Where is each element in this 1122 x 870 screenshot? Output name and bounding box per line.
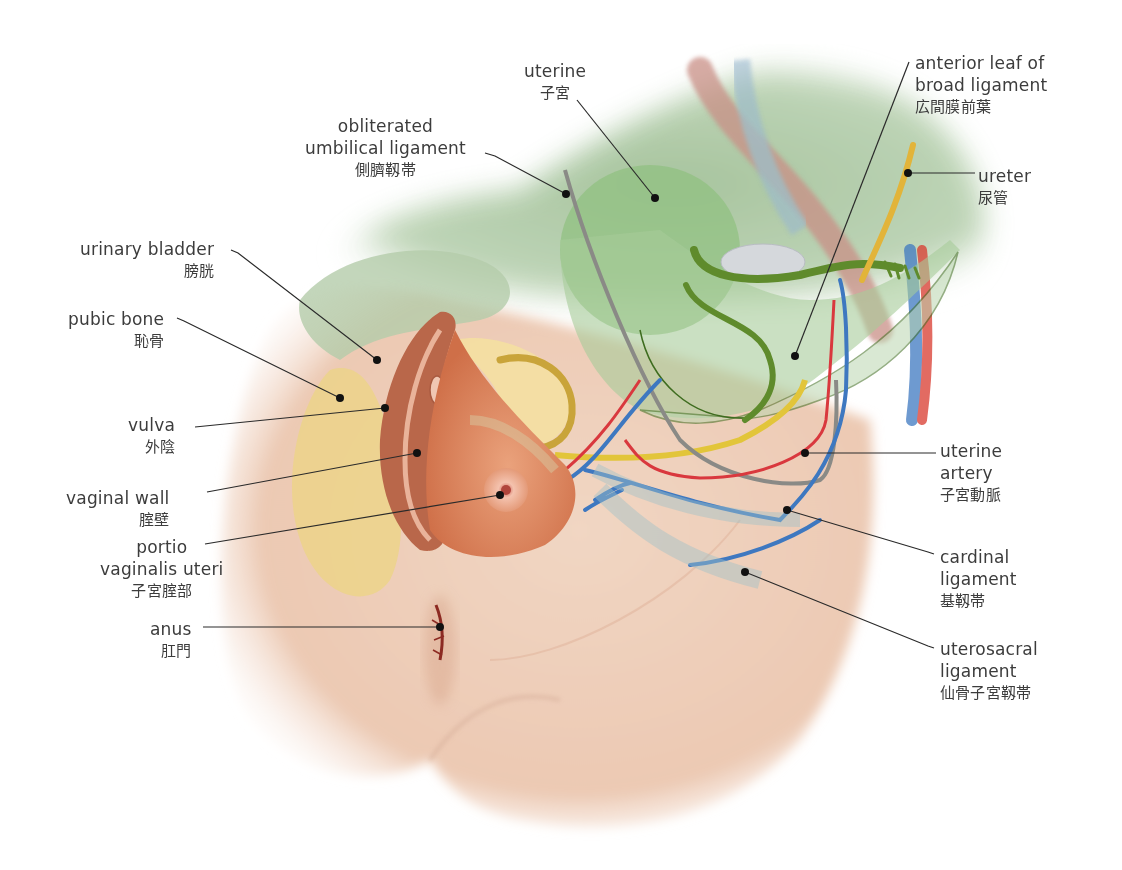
label-uterine-artery: uterineartery子宮動脈 [940, 440, 1002, 506]
leader-dot-uterine [651, 194, 659, 202]
label-japanese-text: 側臍靱帯 [305, 159, 466, 181]
label-portio-vaginalis-uteri: portiovaginalis uteri子宮腟部 [100, 536, 224, 602]
leader-dot-cardinal-ligament [783, 506, 791, 514]
label-english-text: anterior leaf of [915, 52, 1047, 74]
label-ureter: ureter尿管 [978, 165, 1031, 209]
label-japanese-text: 肛門 [150, 640, 192, 662]
label-uterosacral-ligament: uterosacralligament仙骨子宮靱帯 [940, 638, 1038, 704]
label-english-text: broad ligament [915, 74, 1047, 96]
leader-dot-uterine-artery [801, 449, 809, 457]
label-japanese-text: 仙骨子宮靱帯 [940, 682, 1038, 704]
label-uterine: uterine子宮 [524, 60, 586, 104]
leader-dot-pubic-bone [336, 394, 344, 402]
label-english-text: uterine [940, 440, 1002, 462]
label-japanese-text: 基靱帯 [940, 590, 1017, 612]
label-urinary-bladder: urinary bladder膀胱 [80, 238, 214, 282]
label-english-text: ligament [940, 568, 1017, 590]
label-pubic-bone: pubic bone恥骨 [68, 308, 164, 352]
label-english-text: obliterated [305, 115, 466, 137]
leader-dot-anterior-leaf-broad-ligament [791, 352, 799, 360]
leader-dot-vulva [381, 404, 389, 412]
label-japanese-text: 尿管 [978, 187, 1031, 209]
leader-dot-vaginal-wall [413, 449, 421, 457]
label-cardinal-ligament: cardinalligament基靱帯 [940, 546, 1017, 612]
leader-dot-obliterated-umbilical-ligament [562, 190, 570, 198]
label-japanese-text: 外陰 [128, 436, 175, 458]
label-japanese-text: 腟壁 [66, 509, 169, 531]
label-japanese-text: 子宮腟部 [100, 580, 224, 602]
label-english-text: pubic bone [68, 308, 164, 330]
label-english-text: umbilical ligament [305, 137, 466, 159]
label-english-text: cardinal [940, 546, 1017, 568]
leader-dot-uterosacral-ligament [741, 568, 749, 576]
leader-dot-urinary-bladder [373, 356, 381, 364]
label-english-text: anus [150, 618, 192, 640]
label-anus: anus肛門 [150, 618, 192, 662]
label-english-text: vulva [128, 414, 175, 436]
label-japanese-text: 膀胱 [80, 260, 214, 282]
label-japanese-text: 子宮動脈 [940, 484, 1002, 506]
anatomy-diagram: uterine子宮obliteratedumbilical ligament側臍… [0, 0, 1122, 870]
label-english-text: uterine [524, 60, 586, 82]
label-english-text: vaginal wall [66, 487, 169, 509]
label-obliterated-umbilical-ligament: obliteratedumbilical ligament側臍靱帯 [305, 115, 466, 181]
leader-dot-portio-vaginalis-uteri [496, 491, 504, 499]
label-english-text: artery [940, 462, 1002, 484]
label-english-text: urinary bladder [80, 238, 214, 260]
label-anterior-leaf-broad-ligament: anterior leaf ofbroad ligament広間膜前葉 [915, 52, 1047, 118]
label-japanese-text: 広間膜前葉 [915, 96, 1047, 118]
label-vaginal-wall: vaginal wall腟壁 [66, 487, 169, 531]
label-english-text: ligament [940, 660, 1038, 682]
leader-dot-ureter [904, 169, 912, 177]
label-english-text: vaginalis uteri [100, 558, 224, 580]
label-vulva: vulva外陰 [128, 414, 175, 458]
anus [424, 595, 456, 705]
leader-dot-anus [436, 623, 444, 631]
label-english-text: portio [100, 536, 224, 558]
label-english-text: uterosacral [940, 638, 1038, 660]
label-japanese-text: 恥骨 [68, 330, 164, 352]
label-japanese-text: 子宮 [524, 82, 586, 104]
label-english-text: ureter [978, 165, 1031, 187]
